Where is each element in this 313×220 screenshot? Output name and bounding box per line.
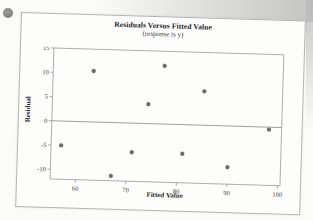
y-tick-label: 10 — [42, 68, 49, 75]
data-point — [59, 143, 63, 147]
y-tick-label: -5 — [41, 141, 47, 148]
data-point — [130, 150, 134, 154]
data-point — [267, 128, 271, 132]
y-tick-label: -10 — [37, 165, 46, 172]
y-tick-label: 0 — [44, 117, 47, 124]
data-point — [225, 165, 229, 169]
y-tick-label: 5 — [45, 93, 48, 100]
data-point — [92, 69, 96, 73]
x-tick-label: 60 — [72, 185, 79, 192]
x-tick-label: 80 — [173, 188, 180, 195]
x-tick-label: 90 — [223, 189, 230, 196]
chart-figure: Residuals Versus Fitted Value (response … — [15, 12, 306, 215]
y-tick-label: 15 — [43, 47, 50, 52]
data-point — [202, 89, 206, 93]
data-point — [146, 102, 150, 106]
zero-reference-line — [52, 121, 282, 128]
plot-svg: 151050-5-1060708090100 — [34, 47, 291, 206]
y-axis-label: Residual — [23, 69, 33, 149]
x-tick-label: 100 — [272, 191, 282, 198]
data-point — [109, 174, 113, 178]
list-bullet-icon — [3, 8, 13, 18]
data-point — [163, 64, 167, 68]
x-tick-label: 70 — [122, 186, 129, 193]
plot-frame — [50, 48, 284, 186]
page-edge-shade-right — [306, 0, 313, 130]
data-point — [180, 152, 184, 156]
